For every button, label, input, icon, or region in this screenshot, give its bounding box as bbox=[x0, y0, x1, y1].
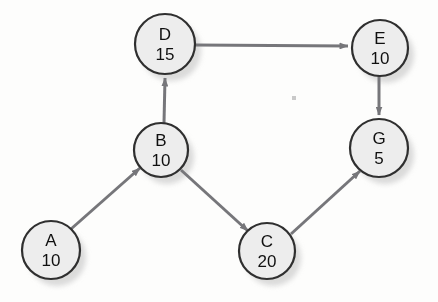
edge-c-to-g bbox=[291, 171, 360, 234]
diagram-canvas: A 10 B 10 C 20 D 15 E 10 G 5 bbox=[0, 0, 438, 302]
node-label-b: B bbox=[155, 131, 166, 150]
node-value-c: 20 bbox=[258, 252, 277, 271]
node-g[interactable]: G 5 bbox=[350, 119, 408, 177]
scan-speck bbox=[292, 96, 296, 100]
node-label-d: D bbox=[159, 25, 171, 44]
node-value-d: 15 bbox=[156, 45, 175, 64]
node-e[interactable]: E 10 bbox=[352, 20, 408, 76]
node-b[interactable]: B 10 bbox=[134, 123, 188, 177]
graph-edges bbox=[71, 45, 379, 234]
node-label-c: C bbox=[261, 232, 273, 251]
node-label-e: E bbox=[374, 29, 385, 48]
node-value-a: 10 bbox=[42, 251, 61, 270]
edge-d-to-e bbox=[195, 45, 348, 46]
node-value-g: 5 bbox=[374, 149, 383, 168]
edge-b-to-c bbox=[181, 170, 248, 231]
node-label-a: A bbox=[45, 231, 57, 250]
node-a[interactable]: A 10 bbox=[22, 221, 80, 279]
node-d[interactable]: D 15 bbox=[135, 14, 195, 74]
edge-b-to-d bbox=[164, 78, 165, 123]
node-c[interactable]: C 20 bbox=[239, 223, 295, 279]
node-value-b: 10 bbox=[152, 151, 171, 170]
directed-graph: A 10 B 10 C 20 D 15 E 10 G 5 bbox=[0, 0, 438, 302]
node-label-g: G bbox=[372, 129, 385, 148]
edge-a-to-b bbox=[71, 168, 140, 229]
node-value-e: 10 bbox=[371, 49, 390, 68]
